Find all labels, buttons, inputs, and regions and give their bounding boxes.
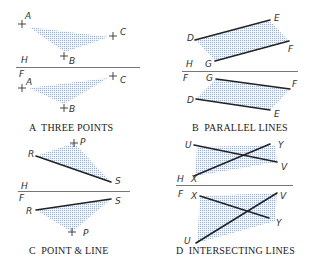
fold-label-h: H	[21, 181, 28, 191]
fold-label-f: F	[178, 189, 184, 199]
point-b-cross-icon	[60, 52, 68, 60]
panel-d-front-view: X V Y U	[184, 191, 287, 246]
label-s: S	[115, 196, 121, 206]
label-p: P	[83, 228, 89, 238]
shaded-plane	[195, 145, 277, 176]
label-p: P	[80, 137, 86, 147]
point-c-cross-icon	[109, 72, 117, 80]
shaded-plane	[36, 143, 111, 182]
label-b: B	[69, 104, 75, 114]
fold-label-h: H	[186, 59, 193, 69]
label-d: D	[187, 33, 194, 43]
label-y: Y	[278, 140, 285, 150]
label-f: F	[292, 79, 298, 89]
label-e: E	[274, 109, 280, 119]
shaded-plane	[29, 78, 108, 104]
point-b-cross-icon	[60, 104, 68, 112]
label-u: U	[185, 140, 192, 150]
panel-c-point-and-line: P R S H F S R P C POINT & LINE	[18, 137, 130, 256]
point-a-cross-icon	[18, 84, 26, 92]
label-g: G	[205, 59, 212, 69]
panel-a-top-view: A C B	[18, 11, 127, 66]
label-a: A	[25, 77, 32, 87]
panel-d-top-view: U Y V X	[185, 140, 288, 184]
plane-determination-figure: A C B H F A C B	[0, 0, 314, 267]
label-e: E	[274, 13, 280, 23]
label-y: Y	[276, 218, 283, 228]
label-c: C	[120, 75, 127, 85]
label-r: R	[26, 206, 32, 216]
point-c-cross-icon	[109, 32, 117, 40]
caption-b: B PARALLEL LINES	[192, 122, 288, 133]
panel-b-parallel-lines: D E F G H F G F D E B PARALLEL LINES	[182, 13, 298, 133]
label-b: B	[69, 56, 75, 66]
panel-b-top-view: D E F G	[187, 13, 294, 69]
panel-a-three-points: A C B H F A C B	[16, 11, 140, 133]
label-f: F	[288, 44, 294, 54]
panel-b-front-view: G F D E	[187, 73, 298, 119]
fold-label-h: H	[21, 55, 28, 65]
label-v: V	[280, 191, 287, 201]
fold-label-h: H	[177, 174, 184, 184]
caption-a: A THREE POINTS	[29, 122, 113, 133]
panel-d-intersecting-lines: U Y V X H F X V Y U D INTERSECTING LINES	[176, 140, 295, 256]
label-d: D	[187, 95, 194, 105]
fold-label-f: F	[19, 193, 25, 203]
fold-label-f: F	[19, 69, 25, 79]
panel-a-front-view: A C B	[18, 72, 127, 114]
caption-d: D INTERSECTING LINES	[176, 245, 295, 256]
label-g: G	[206, 73, 213, 83]
label-v: V	[281, 162, 288, 172]
panel-c-front-view: S R P	[26, 196, 121, 238]
label-a: A	[24, 11, 31, 21]
label-r: R	[28, 149, 34, 159]
label-c: C	[120, 27, 127, 37]
panel-c-top-view: P R S	[28, 137, 121, 186]
fold-label-f: F	[183, 73, 189, 83]
caption-c: C POINT & LINE	[29, 245, 108, 256]
label-x: X	[190, 174, 198, 184]
point-a-cross-icon	[18, 20, 26, 28]
label-s: S	[115, 176, 121, 186]
shaded-plane	[29, 27, 109, 52]
label-x: X	[190, 191, 198, 201]
